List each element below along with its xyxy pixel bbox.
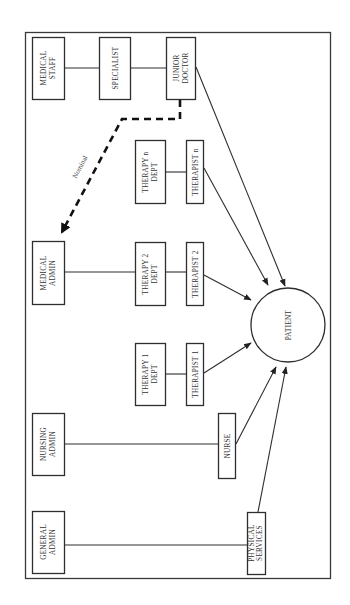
node-label-line1: THERAPY 1 xyxy=(142,353,150,394)
node-label-line2: ADMIN xyxy=(49,431,57,457)
node-label-line2: ADMIN xyxy=(49,529,57,555)
node-label-line1: THERAPIST 2 xyxy=(192,250,200,297)
node-therapist-n: THERAPIST n xyxy=(187,141,204,204)
node-label-line2: DEPT xyxy=(151,364,159,383)
node-therapist-1: THERAPIST 1 xyxy=(187,344,204,406)
node-label-line2: STAFF xyxy=(49,57,57,80)
node-label-line1: THERAPIST 1 xyxy=(192,350,200,397)
node-label-line2: SERVICES xyxy=(256,525,264,561)
node-label-line1: THERAPY 2 xyxy=(142,253,150,294)
node-label-line1: SPECIALIST xyxy=(112,46,120,89)
node-medical-staff: MEDICAL STAFF xyxy=(33,38,65,100)
node-therapist-2: THERAPIST 2 xyxy=(187,243,204,306)
node-nursing-admin: NURSING ADMIN xyxy=(33,414,65,476)
arrow-therapist-n-to-patient xyxy=(204,168,268,285)
node-physical-services: PHYSICAL SERVICES xyxy=(248,513,266,575)
arrow-junior-doctor-to-patient xyxy=(196,67,285,286)
node-label-line1: GENERAL xyxy=(40,524,48,560)
arrow-therapist-1-to-patient xyxy=(204,343,251,373)
nominal-label: Nominal xyxy=(71,154,90,179)
patient-arrows xyxy=(196,67,286,512)
node-label-line2: DEPT xyxy=(151,264,159,283)
arrow-nurse-to-patient xyxy=(236,367,276,444)
node-label-line2: DOCTOR xyxy=(182,52,190,83)
node-general-admin: GENERAL ADMIN xyxy=(33,512,65,574)
node-label-line2: ADMIN xyxy=(49,260,57,286)
node-nurse: NURSE xyxy=(219,414,236,479)
node-medical-admin: MEDICAL ADMIN xyxy=(33,242,65,305)
node-label-line1: PATIENT xyxy=(285,309,293,340)
node-patient: PATIENT xyxy=(251,288,325,362)
node-label-line2: DEPT xyxy=(151,162,159,181)
node-junior-doctor: JUNIOR DOCTOR xyxy=(167,38,196,100)
node-label-line1: MEDICAL xyxy=(40,256,48,291)
node-therapy-2-dept: THERAPY 2 DEPT xyxy=(136,243,166,306)
arrow-therapist-2-to-patient xyxy=(204,275,251,300)
node-therapy-n-dept: THERAPY n DEPT xyxy=(136,141,166,204)
node-label-line1: THERAPY n xyxy=(142,151,150,192)
node-label-line1: NURSING xyxy=(40,427,48,461)
node-label-line1: JUNIOR xyxy=(173,54,181,81)
node-label-line1: PHYSICAL xyxy=(248,524,256,562)
node-label-line1: THERAPIST n xyxy=(192,148,200,195)
node-label-line1: NURSE xyxy=(224,433,232,458)
arrow-physical-services-to-patient xyxy=(258,367,286,512)
node-specialist: SPECIALIST xyxy=(100,38,131,100)
hospital-organisation-diagram: Nominal MEDICAL STAFF SPECIALIST JUNIOR … xyxy=(0,0,350,605)
node-label-line1: MEDICAL xyxy=(40,51,48,86)
node-therapy-1-dept: THERAPY 1 DEPT xyxy=(136,344,166,406)
